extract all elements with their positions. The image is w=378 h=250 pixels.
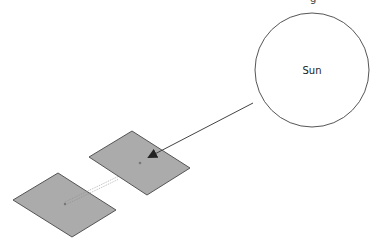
sun-label: Sun <box>302 65 321 76</box>
sun: Sun <box>255 13 369 127</box>
sun-ray-arrow <box>149 103 253 157</box>
top-text-fragment: g <box>310 0 316 4</box>
solar-panel-diagram: g Sun <box>0 0 378 250</box>
upper-panel-center-dot <box>139 162 142 165</box>
lower-panel-center-dot <box>64 203 66 205</box>
